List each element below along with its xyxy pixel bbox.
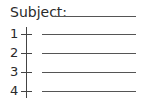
row-number-4: 4	[10, 83, 18, 98]
row-number-2: 2	[10, 45, 18, 60]
row-blank-line-3	[42, 72, 136, 73]
vertical-axis-line	[26, 27, 27, 98]
tick-4	[21, 91, 32, 92]
row-number-3: 3	[10, 64, 18, 79]
tick-1	[21, 34, 32, 35]
row-blank-line-1	[42, 34, 136, 35]
row-blank-line-2	[42, 53, 136, 54]
row-blank-line-4	[42, 91, 136, 92]
subject-label: Subject:	[10, 4, 67, 21]
tick-3	[21, 72, 32, 73]
row-number-1: 1	[10, 26, 18, 41]
tick-2	[21, 53, 32, 54]
subject-blank-line	[53, 16, 136, 17]
